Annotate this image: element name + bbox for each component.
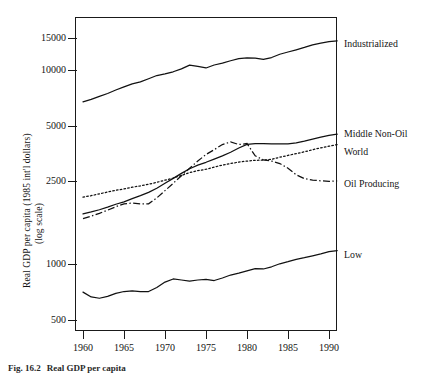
- figure-real-gdp-per-capita: Real GDP per capita (1985 int'l dollars)…: [0, 0, 427, 374]
- x-tick-label-1965: 1965: [104, 342, 144, 353]
- series-label-world: World: [344, 146, 368, 157]
- chart-lines-svg: [75, 17, 337, 331]
- x-tick-label-1975: 1975: [186, 342, 226, 353]
- x-tick-mark-1980: [247, 331, 248, 339]
- y-tick-label-1000: 1000: [46, 258, 66, 269]
- series-label-oil-producing: Oil Producing: [344, 178, 399, 189]
- series-line-low: [83, 251, 337, 299]
- x-tick-mark-1970: [165, 331, 166, 339]
- x-tick-label-1990: 1990: [309, 342, 349, 353]
- y-tick-label-5000: 5000: [46, 120, 66, 131]
- series-line-middle-non-oil: [83, 134, 337, 214]
- y-tick-label-500: 500: [51, 314, 66, 325]
- x-tick-label-1970: 1970: [145, 342, 185, 353]
- x-tick-mark-1985: [288, 331, 289, 339]
- x-tick-label-1985: 1985: [268, 342, 308, 353]
- y-axis-title-line-1: Real GDP per capita (1985 int'l dollars): [22, 133, 32, 288]
- y-tick-label-10000: 10000: [41, 64, 66, 75]
- figure-caption-number: Fig. 16.2: [8, 363, 41, 373]
- x-tick-label-1980: 1980: [227, 342, 267, 353]
- figure-caption-text: Real GDP per capita: [47, 363, 126, 373]
- series-label-middle-non-oil: Middle Non-Oil: [344, 128, 407, 139]
- series-line-industrialized: [83, 41, 337, 102]
- x-tick-mark-1990: [329, 331, 330, 339]
- figure-caption: Fig. 16.2Real GDP per capita: [8, 363, 126, 373]
- x-tick-mark-1960: [83, 331, 84, 339]
- series-label-industrialized: Industrialized: [344, 38, 398, 49]
- x-tick-mark-1975: [206, 331, 207, 339]
- y-tick-label-2500: 2500: [46, 175, 66, 186]
- y-axis-title-group: Real GDP per capita (1985 int'l dollars)…: [8, 60, 48, 290]
- y-axis-title-line-2: (log scale): [34, 203, 44, 244]
- x-tick-label-1960: 1960: [63, 342, 103, 353]
- series-label-low: Low: [344, 249, 362, 260]
- x-tick-mark-1965: [124, 331, 125, 339]
- y-tick-label-15000: 15000: [41, 32, 66, 43]
